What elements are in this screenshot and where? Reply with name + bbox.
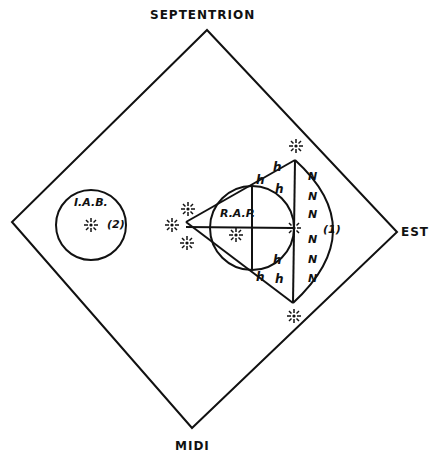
- label-east: EST: [401, 225, 429, 239]
- label-north: SEPTENTRION: [150, 8, 255, 22]
- inner-circle-horizontal: [186, 227, 294, 228]
- label-south: MIDI: [175, 439, 210, 453]
- layout-diagram: [0, 0, 434, 457]
- h-mark: h: [273, 160, 282, 174]
- n-mark: N: [308, 208, 317, 221]
- star-icon-inner-circle: [229, 228, 243, 242]
- n-mark: N: [308, 233, 317, 246]
- left-circle-number: (2): [107, 218, 125, 231]
- h-mark: h: [275, 182, 284, 196]
- n-mark: N: [308, 253, 317, 266]
- n-mark: N: [308, 190, 317, 203]
- inner-circle-label: R.A.P.: [220, 207, 255, 220]
- right-arc-number: (1): [323, 223, 341, 236]
- n-mark: N: [308, 170, 317, 183]
- star-icon-top-vertex: [289, 139, 303, 153]
- star-icon-apex-lower: [180, 236, 194, 250]
- left-circle-star-icon: [84, 218, 98, 232]
- h-mark: h: [256, 173, 265, 187]
- star-icon-apex-upper: [181, 202, 195, 216]
- left-circle-label: I.A.B.: [74, 196, 108, 209]
- h-mark: h: [256, 270, 265, 284]
- h-mark: h: [275, 272, 284, 286]
- n-mark: N: [308, 272, 317, 285]
- h-mark: h: [273, 253, 282, 267]
- star-icon-center-right: [287, 221, 301, 235]
- star-icon-apex-left: [165, 218, 179, 232]
- star-icon-bottom-vertex: [287, 309, 301, 323]
